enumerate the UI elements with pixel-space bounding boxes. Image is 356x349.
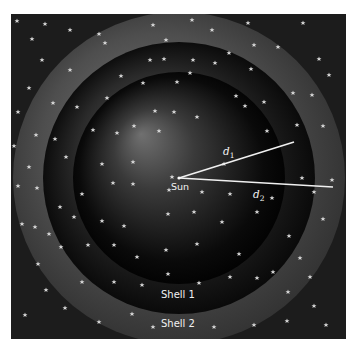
sun-point xyxy=(177,176,180,179)
sun-label: Sun xyxy=(171,181,189,192)
star-shell-diagram: Sun d1 d2 Shell 1 Shell 2 xyxy=(11,14,346,339)
diagram-canvas: Sun d1 d2 Shell 1 Shell 2 xyxy=(11,14,346,339)
shell-2-label: Shell 2 xyxy=(161,318,195,329)
shell-1-label: Shell 1 xyxy=(161,289,195,300)
